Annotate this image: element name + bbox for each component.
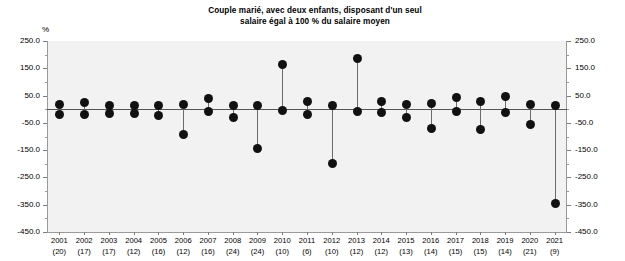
y-tick-left — [43, 96, 47, 97]
y-axis-label-left: 250.0 — [20, 36, 40, 45]
y-axis-label-right: -150.0 — [575, 145, 598, 154]
x-tick — [431, 232, 432, 235]
y-tick-minor-left — [45, 137, 47, 138]
y-tick-right — [567, 68, 571, 69]
x-tick — [59, 232, 60, 235]
x-category-label: 2021(9) — [535, 236, 575, 257]
y-tick-left — [43, 205, 47, 206]
x-tick — [158, 232, 159, 235]
plot-area — [47, 41, 567, 232]
y-axis-label-left: -250.0 — [17, 172, 40, 181]
data-point-min[interactable] — [303, 110, 312, 119]
plot-axis-left — [47, 41, 48, 232]
data-point-max[interactable] — [452, 93, 461, 102]
x-tick — [307, 232, 308, 235]
x-tick — [505, 232, 506, 235]
y-axis-label-right: -250.0 — [575, 172, 598, 181]
data-point-min[interactable] — [278, 106, 287, 115]
y-axis-label-right: 150.0 — [575, 63, 595, 72]
x-tick — [555, 232, 556, 235]
x-tick — [282, 232, 283, 235]
range-stem — [257, 105, 258, 148]
x-tick — [480, 232, 481, 235]
data-point-max[interactable] — [377, 97, 386, 106]
y-tick-minor-left — [45, 191, 47, 192]
y-tick-left — [43, 123, 47, 124]
x-tick — [332, 232, 333, 235]
y-tick-right — [567, 41, 571, 42]
y-tick-right — [567, 177, 571, 178]
chart-title-line-2: salaire égal à 100 % du salaire moyen — [240, 17, 390, 26]
y-axis-label-left: 150.0 — [20, 63, 40, 72]
data-point-min[interactable] — [501, 108, 510, 117]
data-point-min[interactable] — [353, 107, 362, 116]
data-point-min[interactable] — [105, 109, 114, 118]
data-point-max[interactable] — [303, 97, 312, 106]
data-point-max[interactable] — [551, 101, 560, 110]
y-tick-right — [567, 150, 571, 151]
y-tick-left — [43, 41, 47, 42]
y-tick-minor-right — [567, 191, 569, 192]
y-tick-minor-right — [567, 109, 569, 110]
y-tick-right — [567, 96, 571, 97]
data-point-min[interactable] — [452, 107, 461, 116]
x-tick — [233, 232, 234, 235]
y-axis-label-right: 50.0 — [575, 91, 591, 100]
chart-title: Couple marié, avec deux enfants, disposa… — [130, 5, 500, 27]
y-tick-left — [43, 177, 47, 178]
y-tick-minor-left — [45, 82, 47, 83]
range-stem — [282, 64, 283, 110]
y-axis-label-left: -350.0 — [17, 200, 40, 209]
chart-title-line-1: Couple marié, avec deux enfants, disposa… — [208, 6, 422, 15]
data-point-min[interactable] — [179, 130, 188, 139]
data-point-min[interactable] — [229, 113, 238, 122]
x-tick — [406, 232, 407, 235]
data-point-max[interactable] — [353, 54, 362, 63]
x-tick — [381, 232, 382, 235]
y-tick-left — [43, 68, 47, 69]
y-tick-minor-right — [567, 218, 569, 219]
y-axis-label-right: -50.0 — [575, 118, 593, 127]
y-axis-label-left: -150.0 — [17, 145, 40, 154]
x-tick — [109, 232, 110, 235]
data-point-max[interactable] — [278, 60, 287, 69]
y-tick-left — [43, 232, 47, 233]
data-point-min[interactable] — [55, 110, 64, 119]
data-point-min[interactable] — [551, 199, 560, 208]
range-stem — [555, 105, 556, 203]
x-tick — [183, 232, 184, 235]
y-tick-left — [43, 150, 47, 151]
y-tick-right — [567, 205, 571, 206]
data-point-min[interactable] — [204, 107, 213, 116]
chart-root: Couple marié, avec deux enfants, disposa… — [0, 0, 625, 261]
x-tick — [84, 232, 85, 235]
y-tick-right — [567, 232, 571, 233]
y-tick-minor-left — [45, 164, 47, 165]
data-point-min[interactable] — [328, 159, 337, 168]
y-tick-minor-right — [567, 137, 569, 138]
y-tick-minor-right — [567, 82, 569, 83]
y-axis-label-left: -450.0 — [17, 227, 40, 236]
data-point-max[interactable] — [80, 98, 89, 107]
y-axis-label-right: -450.0 — [575, 227, 598, 236]
y-axis-label-right: -350.0 — [575, 200, 598, 209]
x-tick — [530, 232, 531, 235]
data-point-max[interactable] — [229, 101, 238, 110]
y-tick-minor-left — [45, 218, 47, 219]
y-tick-minor-right — [567, 55, 569, 56]
x-category-year: 2021 — [535, 236, 575, 247]
data-point-max[interactable] — [204, 94, 213, 103]
data-point-min[interactable] — [402, 113, 411, 122]
x-tick — [456, 232, 457, 235]
range-stem — [332, 106, 333, 163]
x-tick — [357, 232, 358, 235]
y-tick-right — [567, 123, 571, 124]
x-tick — [208, 232, 209, 235]
data-point-min[interactable] — [130, 109, 139, 118]
data-point-min[interactable] — [526, 120, 535, 129]
x-tick — [257, 232, 258, 235]
x-tick — [134, 232, 135, 235]
x-category-count: (9) — [535, 247, 575, 258]
data-point-max[interactable] — [427, 99, 436, 108]
y-tick-minor-left — [45, 55, 47, 56]
